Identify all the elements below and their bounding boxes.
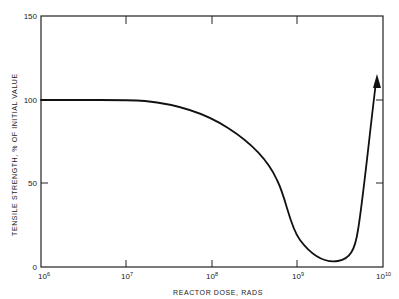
x-tick-1e8: 108 — [206, 271, 218, 281]
arrow-head-icon — [373, 74, 381, 88]
x-tick-1e9: 109 — [292, 271, 304, 281]
x-tick-1e7: 107 — [121, 271, 133, 281]
y-tick-0: 0 — [33, 263, 38, 272]
chart: 0 50 100 150 106 107 108 109 1010 REACTO… — [0, 0, 399, 299]
y-axis: 0 50 100 150 — [24, 12, 48, 272]
x-tick-1e10: 1010 — [376, 271, 391, 281]
plot-frame — [41, 16, 383, 267]
y-tick-50: 50 — [28, 179, 37, 188]
x-axis: 106 107 108 109 1010 — [38, 16, 391, 281]
x-tick-1e6: 106 — [38, 271, 50, 281]
y-tick-100: 100 — [24, 96, 38, 105]
y-axis-title: TENSILE STRENGTH, % OF INITIAL VALUE — [11, 73, 18, 236]
tensile-strength-curve — [41, 82, 376, 261]
x-axis-title: REACTOR DOSE, RADS — [173, 289, 263, 296]
y-tick-150: 150 — [24, 12, 38, 21]
